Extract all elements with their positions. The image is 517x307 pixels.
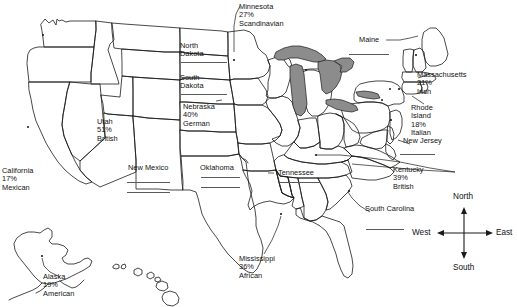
dot-maine (415, 54, 417, 56)
label-oklahoma-name: Oklahoma (200, 163, 234, 172)
blank-new-mexico-percent[interactable] (127, 182, 170, 183)
compass-label-south: South (453, 263, 474, 272)
dot-minnesota (233, 59, 235, 61)
state-indiana (294, 118, 320, 148)
label-mississippi-ancestry: African (239, 271, 262, 280)
compass-north-arrow (461, 207, 467, 214)
label-mississippi: Mississippi 36% African (239, 255, 275, 280)
state-chesapeake-peninsula (386, 144, 396, 160)
blank-south-carolina-percent[interactable] (366, 229, 404, 230)
state-idaho (91, 21, 119, 84)
leader-nebraska (216, 100, 222, 101)
state-wyoming (122, 49, 180, 80)
state-west-virginia (336, 114, 360, 147)
lake-michigan (290, 64, 307, 116)
state-iowa (230, 78, 268, 105)
state-oregon (27, 47, 94, 82)
label-california-ancestry: Mexican (2, 183, 30, 192)
label-new-jersey: New Jersey (403, 137, 442, 145)
state-hawaii (113, 264, 179, 306)
state-maine (422, 28, 448, 66)
great-lakes (274, 46, 380, 116)
lake-superior (274, 46, 326, 62)
label-oklahoma: Oklahoma (200, 164, 234, 172)
state-kentucky (284, 142, 352, 164)
dot-california (27, 126, 29, 128)
state-oklahoma (180, 130, 239, 156)
state-new-jersey (390, 110, 402, 140)
state-washington (41, 19, 96, 47)
blank-south-dakota-percent[interactable] (181, 94, 227, 95)
compass-rose (437, 207, 493, 259)
compass-label-north: North (453, 192, 473, 201)
blank-maine-percent[interactable] (349, 54, 389, 55)
blank-tennessee-percent[interactable] (278, 182, 321, 183)
dot-massachusetts (398, 88, 400, 90)
label-massachusetts: Massachusetts 21% Irish (417, 71, 467, 96)
state-vermont (403, 49, 414, 72)
lake-erie (326, 99, 358, 112)
compass-west-arrow (437, 230, 444, 236)
state-montana (112, 23, 180, 52)
label-kentucky-ancestry: British (393, 182, 414, 191)
compass-east-arrow (486, 230, 493, 236)
compass-label-east: East (496, 228, 512, 237)
state-new-hampshire (413, 48, 426, 72)
blank-oklahoma-percent[interactable] (201, 177, 240, 178)
state-arkansas (238, 143, 276, 171)
dot-mississippi (280, 213, 282, 215)
label-minnesota: Minnesota 27% Scandinavian (239, 3, 284, 28)
label-tennessee-name: Tennessee (278, 168, 314, 177)
lake-ontario (356, 91, 380, 99)
label-new-jersey-name: New Jersey (403, 136, 442, 145)
label-north-dakota: North Dakota (180, 42, 204, 59)
dot-new-york (381, 99, 383, 101)
state-wisconsin (266, 56, 292, 98)
label-rhode-island: Rhode Island 18% Italian (411, 104, 433, 137)
dot-kentucky (315, 154, 317, 156)
label-kentucky: Kentucky 39% British (393, 166, 424, 191)
state-florida (296, 208, 353, 278)
dot-alaska (41, 255, 43, 257)
dot-michigan (305, 69, 307, 71)
label-massachusetts-ancestry: Irish (417, 87, 431, 96)
label-california: California 17% Mexican (2, 167, 33, 192)
state-california (29, 82, 92, 184)
label-utah-ancestry: British (97, 134, 118, 143)
label-tennessee: Tennessee (278, 169, 314, 177)
leader-maine (386, 36, 418, 40)
label-nebraska-ancestry: German (183, 119, 210, 128)
label-alaska: Alaska 19% American (43, 273, 74, 298)
state-colorado (133, 77, 180, 120)
compass-label-west: West (412, 228, 431, 237)
label-south-carolina-name: South Carolina (365, 204, 414, 213)
map-worksheet: Minnesota 27% Scandinavian North Dakota … (0, 0, 517, 307)
dot-connecticut (389, 88, 391, 90)
label-new-mexico-name: New Mexico (128, 163, 168, 172)
blank-new-jersey-percent[interactable] (400, 154, 435, 155)
dot-washington (42, 34, 44, 36)
label-new-mexico: New Mexico (128, 164, 168, 172)
state-north-carolina (342, 156, 394, 180)
label-maine-name: Maine (359, 35, 379, 44)
state-new-mexico (133, 116, 183, 190)
label-south-dakota-name2: Dakota (180, 81, 204, 90)
leader-kentucky (316, 155, 455, 172)
dot-south-carolina (348, 190, 350, 192)
blank-north-dakota-percent[interactable] (181, 62, 227, 63)
label-south-carolina: South Carolina (365, 205, 414, 213)
compass-south-arrow (461, 252, 467, 259)
label-alaska-ancestry: American (43, 289, 74, 298)
leader-mississippi (264, 216, 281, 254)
state-south-carolina (318, 175, 352, 210)
blank-oklahoma-ancestry[interactable] (201, 187, 240, 188)
blank-new-mexico-ancestry[interactable] (127, 192, 170, 193)
state-utah (101, 76, 133, 116)
dot-new-jersey (390, 119, 392, 121)
label-maine: Maine (359, 36, 379, 44)
label-south-dakota: South Dakota (180, 74, 204, 91)
label-north-dakota-name2: Dakota (180, 49, 204, 58)
label-utah: Utah 51% British (97, 118, 118, 143)
label-nebraska: Nebraska 40% German (183, 103, 215, 128)
label-minnesota-ancestry: Scandinavian (239, 19, 284, 28)
